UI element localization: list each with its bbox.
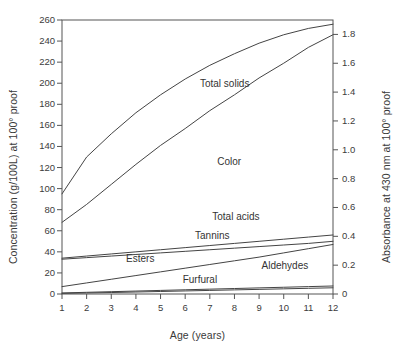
y-right-tick-1.4: 1.4	[342, 86, 382, 97]
y-left-tick-60: 60	[17, 225, 55, 236]
y-left-tick-240: 240	[17, 35, 55, 46]
x-tick-8: 8	[222, 302, 246, 313]
x-tick-10: 10	[272, 302, 296, 313]
y-left-tick-140: 140	[17, 140, 55, 151]
x-tick-6: 6	[173, 302, 197, 313]
y-left-tick-20: 20	[17, 267, 55, 278]
series-label-color: Color	[217, 156, 241, 167]
y-right-tick-1.2: 1.2	[342, 115, 382, 126]
y-axis-right-title: Absorbance at 430 nm at 100° proof	[377, 0, 395, 354]
series-label-aldehydes: Aldehydes	[262, 260, 309, 271]
y-left-tick-180: 180	[17, 98, 55, 109]
series-label-tannins: Tannins	[195, 230, 229, 241]
y-left-tick-220: 220	[17, 56, 55, 67]
x-tick-7: 7	[198, 302, 222, 313]
x-tick-1: 1	[50, 302, 74, 313]
y-left-tick-40: 40	[17, 246, 55, 257]
series-line-aldehydes	[62, 286, 333, 293]
series-label-total-acids: Total acids	[212, 211, 259, 222]
y-right-tick-0.8: 0.8	[342, 173, 382, 184]
series-line-furfural	[62, 288, 333, 294]
series-line-color	[62, 35, 333, 223]
data-series-lines	[62, 24, 333, 293]
y-right-tick-1.0: 1.0	[342, 144, 382, 155]
x-tick-5: 5	[149, 302, 173, 313]
series-line-tannins	[62, 241, 333, 259]
x-tick-11: 11	[296, 302, 320, 313]
x-tick-9: 9	[247, 302, 271, 313]
x-tick-4: 4	[124, 302, 148, 313]
series-label-esters: Esters	[126, 253, 154, 264]
y-right-tick-0.6: 0.6	[342, 201, 382, 212]
plot-frame	[62, 20, 333, 294]
y-right-tick-1.6: 1.6	[342, 57, 382, 68]
chart-plot-area	[0, 0, 395, 354]
y-left-tick-120: 120	[17, 162, 55, 173]
series-line-total-solids	[62, 24, 333, 194]
series-label-total-solids: Total solids	[200, 78, 249, 89]
y-axis-left-title: Concentration (g/100L) at 100° proof	[4, 0, 22, 354]
series-label-furfural: Furfural	[183, 274, 217, 285]
y-left-tick-80: 80	[17, 204, 55, 215]
y-right-tick-0.2: 0.2	[342, 259, 382, 270]
y-left-tick-260: 260	[17, 14, 55, 25]
x-axis-title: Age (years)	[62, 329, 333, 341]
x-tick-2: 2	[75, 302, 99, 313]
y-left-tick-200: 200	[17, 77, 55, 88]
y-left-tick-0: 0	[17, 288, 55, 299]
x-tick-12: 12	[321, 302, 345, 313]
y-left-tick-100: 100	[17, 183, 55, 194]
x-tick-3: 3	[99, 302, 123, 313]
y-left-tick-160: 160	[17, 119, 55, 130]
y-right-tick-0: 0	[342, 288, 382, 299]
chart-figure: 020406080100120140160180200220240260 00.…	[0, 0, 395, 354]
y-right-tick-0.4: 0.4	[342, 230, 382, 241]
y-right-tick-1.8: 1.8	[342, 28, 382, 39]
